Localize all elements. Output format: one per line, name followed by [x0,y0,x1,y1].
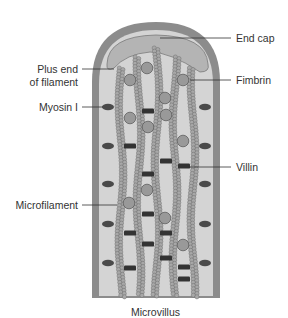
myosin-i-molecule [102,143,114,149]
myosin-i-molecule [199,181,211,187]
fimbrin-protein [141,184,153,196]
villin-protein [124,265,136,270]
fimbrin-protein [177,74,189,86]
label-end-cap: End cap [236,32,275,44]
label-villin: Villin [236,161,258,173]
villin-protein [142,241,154,246]
villin-protein [178,163,190,168]
fimbrin-protein [141,62,153,74]
myosin-i-molecule [102,260,114,266]
villin-protein [160,158,172,163]
label-plus-end-line2: of filament [30,76,78,88]
fimbrin-protein [124,74,136,86]
villin-protein [142,108,154,113]
myosin-i-molecule [102,221,114,227]
villin-protein [142,211,154,216]
myosin-i-molecule [199,143,211,149]
myosin-i-molecule [102,104,114,110]
villin-protein [178,276,190,281]
myosin-i-molecule [199,221,211,227]
fimbrin-protein [123,197,135,209]
fimbrin-protein [177,239,189,251]
villin-protein [160,230,172,235]
villin-protein [178,264,190,269]
fimbrin-protein [159,212,171,224]
actin-bead [140,293,144,297]
actin-bead [195,295,199,299]
fimbrin-protein [177,135,189,147]
villin-protein [142,171,154,176]
myosin-i-molecule [199,104,211,110]
label-myosin-i: Myosin I [39,101,78,113]
actin-bead [155,294,159,298]
myosin-i-molecule [199,260,211,266]
figure-caption: Microvillus [131,306,180,318]
fimbrin-protein [160,109,172,121]
label-plus-end-line1: Plus end [37,63,78,75]
label-microfilament: Microfilament [16,199,78,211]
actin-bead [175,293,179,297]
actin-bead [122,295,126,299]
villin-protein [160,255,172,260]
fimbrin-protein [142,121,154,133]
villin-protein [124,143,136,148]
myosin-i-molecule [102,181,114,187]
fimbrin-protein [124,112,136,124]
fimbrin-protein [159,92,171,104]
label-fimbrin: Fimbrin [236,74,271,86]
villin-protein [124,230,136,235]
